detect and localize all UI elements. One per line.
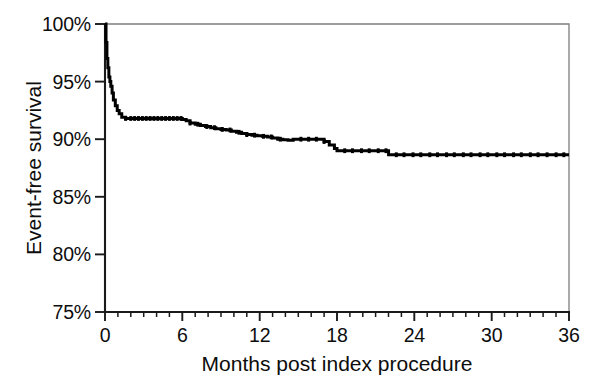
y-tick-label: 90% — [53, 128, 91, 150]
x-tick-label: 30 — [481, 324, 503, 346]
x-tick-label: 0 — [100, 324, 111, 346]
kaplan-meier-chart: 100% 95% 90% 85% 80% 75% — [0, 0, 606, 381]
x-tick-label: 36 — [558, 324, 579, 346]
x-tick-label: 18 — [326, 324, 347, 346]
y-tick-label: 95% — [53, 71, 91, 93]
y-axis-title: Event-free survival — [22, 81, 45, 255]
x-tick-label: 24 — [404, 324, 426, 346]
y-axis-tick-labels: 100% 95% 90% 85% 80% 75% — [42, 13, 91, 323]
figure-container: 100% 95% 90% 85% 80% 75% — [0, 0, 606, 381]
x-tick-label: 6 — [177, 324, 188, 346]
y-tick-label: 85% — [53, 186, 91, 208]
y-axis-ticks — [95, 24, 105, 312]
y-tick-label: 80% — [53, 243, 91, 265]
plot-frame — [105, 24, 569, 312]
y-tick-label: 75% — [53, 301, 91, 323]
y-tick-label: 100% — [42, 13, 91, 35]
censor-marks — [126, 116, 564, 157]
survival-curve — [105, 24, 569, 155]
x-axis-title: Months post index procedure — [202, 352, 473, 375]
plot-axes — [105, 24, 569, 312]
x-axis-major-ticks — [105, 312, 569, 321]
x-tick-label: 12 — [249, 324, 270, 346]
x-axis-tick-labels: 0 6 12 18 24 30 36 — [100, 324, 580, 346]
